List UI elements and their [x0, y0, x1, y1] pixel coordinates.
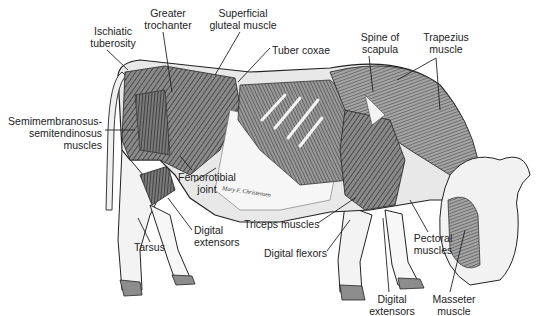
- label-tarsus: Tarsus: [134, 241, 174, 253]
- label-femorotibial-joint: Femorotibial joint: [174, 171, 240, 195]
- semimembranosus-muscle: [135, 90, 170, 155]
- label-digital-extensors-hind: Digital extensors: [194, 224, 250, 248]
- label-superficial-gluteal-muscle: Superficial gluteal muscle: [202, 7, 284, 31]
- label-pectoral-muscles: Pectoral muscles: [408, 232, 458, 256]
- label-digital-extensors-fore: Digital extensors: [364, 293, 420, 316]
- label-digital-flexors: Digital flexors: [264, 247, 344, 259]
- label-masseter-muscle: Masseter muscle: [426, 293, 482, 316]
- leader-ischiatic-tuberosity: [107, 50, 128, 70]
- label-spine-of-scapula: Spine of scapula: [355, 31, 405, 55]
- label-semimembranosus-semitendinosus-muscles: Semimembranosus- semitendinosus muscles: [2, 115, 102, 151]
- label-tuber-coxae: Tuber coxae: [272, 44, 342, 56]
- head: [440, 157, 530, 285]
- fore-hoof-far: [398, 278, 424, 289]
- label-triceps-muscles: Triceps muscles: [244, 218, 334, 230]
- label-ischiatic-tuberosity: Ischiatic tuberosity: [82, 25, 144, 49]
- fore-hoof-near: [340, 285, 365, 300]
- label-greater-trochanter: Greater trochanter: [136, 7, 200, 31]
- label-trapezius-muscle: Trapezius muscle: [416, 31, 476, 55]
- hind-hoof-far: [172, 275, 195, 285]
- hind-hoof-near: [120, 280, 142, 296]
- leader-superficial-gluteal-muscle: [215, 32, 240, 75]
- leader-pectoral-muscles: [410, 200, 428, 232]
